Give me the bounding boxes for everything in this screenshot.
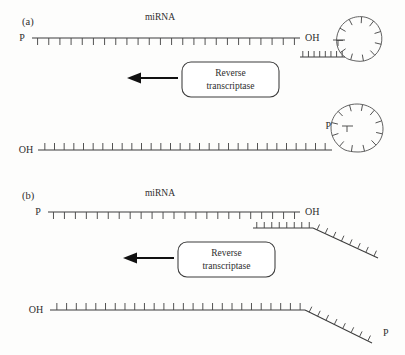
panel-a-cdna-stemloop: P [325, 104, 383, 152]
panel-b-primer-tail-ticks [317, 224, 376, 256]
primer-tail-tick [374, 251, 377, 256]
panel-a-mirna-ticks [38, 38, 295, 45]
primer-loop-tick [375, 32, 381, 34]
primer-loop-tick [362, 55, 363, 61]
panel-a-enzyme-line2: transcriptase [206, 81, 254, 91]
panel-a-cdna-5p-label: P [325, 120, 331, 131]
cdna-loop-tick [376, 121, 382, 123]
panel-a-mirna-label: miRNA [145, 12, 175, 22]
panel-b-cdna-strand: OH P [29, 303, 389, 343]
cdna-tail-tick [351, 327, 354, 332]
panel-b-cdna-3p-label: OH [29, 304, 43, 315]
primer-loop-tick [340, 28, 346, 31]
primer-loop-tick [370, 51, 374, 56]
panel-b-mirna-strand: P OH [35, 206, 319, 219]
primer-tail-tick [317, 224, 320, 229]
panel-b-enzyme-group: Reverse transcriptase [123, 242, 275, 277]
panel-b-mirna-label: miRNA [145, 188, 175, 198]
panel-b-enzyme-line2: transcriptase [202, 261, 250, 271]
cdna-tail-tick [318, 311, 321, 316]
panel-b-mirna-ticks [53, 212, 294, 219]
primer-tail-tick [341, 236, 344, 241]
panel-a-cdna-loop-ticks [332, 105, 383, 152]
cdna-loop-tick [351, 145, 352, 151]
cdna-loop-tick [350, 105, 352, 111]
cdna-tail-tick [309, 307, 312, 312]
panel-a-mirna-strand: P OH [19, 32, 319, 45]
panel-a-cdna-3p-label: OH [19, 144, 33, 155]
primer-tail-tick [366, 247, 369, 252]
panel-a-primer-loop [337, 17, 382, 62]
cdna-loop-tick [338, 111, 342, 116]
panel-b-primer-horizontal-ticks [257, 222, 310, 228]
panel-a-primer-stem-ticks [303, 51, 342, 57]
panel-b: (b) miRNA P OH Reverse transcriptase OH [22, 188, 389, 343]
primer-tail-tick [325, 228, 328, 233]
panel-b-label: (b) [22, 190, 35, 202]
cdna-loop-tick [332, 134, 338, 136]
panel-a-arrow-head-icon [127, 73, 141, 84]
primer-loop-tick [349, 19, 352, 25]
panel-b-primer-tail [313, 228, 378, 258]
panel-b-enzyme-line1: Reverse [211, 248, 242, 258]
cdna-loop-tick [372, 140, 376, 145]
cdna-loop-tick [332, 123, 338, 125]
primer-tail-tick [358, 243, 361, 248]
panel-b-cdna-tail-ticks [309, 307, 370, 341]
primer-tail-tick [333, 232, 336, 237]
panel-b-cdna-ticks [57, 303, 300, 310]
panel-a-cdna-strand: OH [19, 143, 332, 155]
primer-loop-tick [340, 49, 345, 53]
cdna-loop-tick [370, 110, 374, 115]
panel-a-label: (a) [22, 16, 34, 28]
panel-b-mirna-3p-label: OH [305, 206, 319, 217]
panel-b-mirna-5p-label: P [35, 206, 41, 217]
cdna-loop-tick [376, 132, 382, 133]
figure-canvas: (a) miRNA P OH Reverse transcriptase [0, 0, 405, 355]
panel-a-mirna-3p-label: OH [305, 32, 319, 43]
primer-loop-tick [351, 54, 353, 60]
panel-a-enzyme-line1: Reverse [215, 68, 246, 78]
panel-a: (a) miRNA P OH Reverse transcriptase [19, 12, 383, 155]
cdna-loop-tick [363, 145, 364, 151]
panel-b-arrow-head-icon [123, 253, 137, 264]
cdna-tail-tick [359, 331, 362, 336]
panel-a-enzyme-group: Reverse transcriptase [127, 62, 279, 97]
cdna-loop-tick [340, 141, 344, 146]
panel-a-cdna-ticks [45, 143, 325, 150]
primer-loop-tick [370, 21, 374, 26]
cdna-loop-tick [361, 105, 362, 111]
cdna-tail-tick [343, 323, 346, 328]
panel-a-mirna-5p-label: P [19, 32, 25, 43]
cdna-tail-tick [334, 319, 337, 324]
cdna-tail-tick [368, 336, 371, 341]
primer-loop-tick [375, 43, 381, 45]
panel-b-cdna-5p-label: P [383, 327, 389, 338]
primer-tail-tick [350, 239, 353, 244]
panel-b-cdna-tail [305, 310, 372, 343]
cdna-tail-tick [326, 315, 329, 320]
